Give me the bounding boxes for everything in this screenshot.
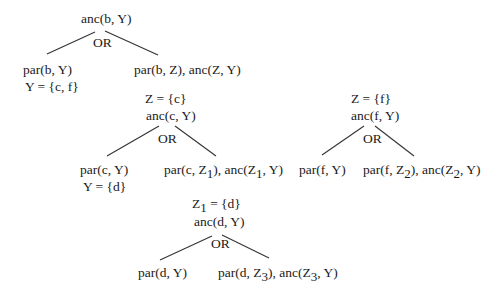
node-root-left-binding: Y = {c, f}: [25, 79, 79, 95]
node-c-right-goal: par(c, Z1), anc(Z1, Y): [164, 162, 283, 178]
node-d-left-goal: par(d, Y): [138, 265, 187, 281]
edge-root-right: [105, 31, 158, 55]
node-f-goal: anc(f, Y): [351, 108, 399, 124]
node-f-binding: Z = {f}: [351, 91, 391, 107]
node-c-binding: Z = {c}: [145, 91, 187, 107]
node-d-goal: anc(d, Y): [194, 214, 244, 230]
or-label-root: OR: [93, 35, 112, 51]
node-root-right-goal: par(b, Z), anc(Z, Y): [134, 62, 241, 78]
node-d-binding: Z1 = {d}: [192, 196, 241, 212]
or-label-d: OR: [211, 236, 230, 252]
node-f-left-goal: par(f, Y): [299, 162, 346, 178]
edge-f-left: [322, 126, 364, 155]
node-c-left-binding: Y = {d}: [83, 179, 126, 195]
node-c-goal: anc(c, Y): [146, 108, 196, 124]
or-label-f: OR: [363, 131, 382, 147]
edge-root-left: [47, 32, 95, 54]
tree-edges: [0, 0, 498, 300]
edge-c-left: [107, 126, 159, 156]
or-label-c: OR: [158, 131, 177, 147]
node-root-left-goal: par(b, Y): [23, 62, 72, 78]
edge-c-right: [175, 126, 216, 156]
node-d-right-goal: par(d, Z3), anc(Z3, Y): [218, 265, 338, 281]
node-f-right-goal: par(f, Z2), anc(Z2, Y): [363, 162, 480, 178]
node-c-left-goal: par(c, Y): [80, 162, 128, 178]
edge-d-left: [160, 236, 212, 260]
node-root-goal: anc(b, Y): [81, 11, 131, 27]
